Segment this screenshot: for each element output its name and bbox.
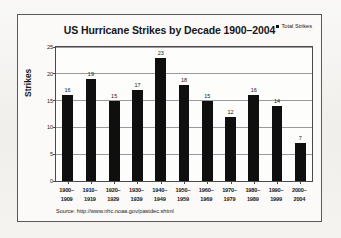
x-axis-label-line: 1980– [241, 186, 264, 195]
x-axis-label-line: 1930– [125, 186, 148, 195]
bar-group: 12 [225, 47, 236, 181]
bar-group: 18 [179, 47, 190, 181]
source-note: Source: http://www.nhc.noaa.gov/pastdec.… [56, 208, 174, 214]
x-axis-label-line: 1960– [195, 186, 218, 195]
x-axis-label-line: 1920– [102, 186, 125, 195]
x-axis-label: 1950–1959 [171, 186, 194, 203]
plot-area: 0510152025 161915172318151216147 [55, 46, 313, 182]
x-axis-label: 1940–1949 [148, 186, 171, 203]
bar[interactable] [155, 58, 166, 181]
x-tick-mark [114, 181, 115, 184]
bar[interactable] [272, 106, 283, 181]
x-axis-label-line: 1929 [102, 195, 125, 204]
x-tick-mark [277, 181, 278, 184]
y-tick-mark-20 [53, 73, 56, 74]
x-axis-label-line: 1970– [218, 186, 241, 195]
x-axis-label-line: 1910– [78, 186, 101, 195]
bar-value-label: 15 [111, 94, 117, 100]
bar-value-label: 19 [88, 72, 94, 78]
x-axis-label-line: 1909 [55, 195, 78, 204]
bar[interactable] [132, 90, 143, 181]
legend-swatch-total-strikes [276, 25, 279, 28]
chart-card-frame: US Hurricane Strikes by Decade 1900–2004… [17, 14, 322, 222]
x-tick-mark [68, 181, 69, 184]
bar-value-label: 12 [227, 110, 233, 116]
y-tick-mark-0 [53, 181, 56, 182]
bar[interactable] [62, 95, 73, 181]
bar-value-label: 14 [274, 99, 280, 105]
bar-group: 16 [62, 47, 73, 181]
x-tick-mark [137, 181, 138, 184]
x-axis-label-line: 2000– [288, 186, 311, 195]
y-tick-label-15: 15 [47, 98, 53, 104]
x-axis-label: 1930–1939 [125, 186, 148, 203]
bar[interactable] [295, 143, 306, 181]
x-tick-mark [300, 181, 301, 184]
x-axis-label-line: 1979 [218, 195, 241, 204]
bar-group: 15 [109, 47, 120, 181]
y-tick-mark-25 [53, 47, 56, 48]
y-tick-label-10: 10 [47, 124, 53, 130]
bar-group: 19 [86, 47, 97, 181]
bar-value-label: 23 [158, 51, 164, 57]
bar-group: 15 [202, 47, 213, 181]
y-tick-mark-5 [53, 154, 56, 155]
y-tick-label-20: 20 [47, 71, 53, 77]
x-axis-label: 1990–1999 [264, 186, 287, 203]
bar-group: 7 [295, 47, 306, 181]
bar[interactable] [248, 95, 259, 181]
x-axis-label-line: 1959 [171, 195, 194, 204]
x-axis-label-line: 1939 [125, 195, 148, 204]
x-tick-mark [161, 181, 162, 184]
x-axis-label: 1920–1929 [102, 186, 125, 203]
bar[interactable] [202, 101, 213, 181]
bar-value-label: 16 [251, 88, 257, 94]
x-axis-label-line: 1940– [148, 186, 171, 195]
x-axis-label: 1900–1909 [55, 186, 78, 203]
x-axis-label-line: 1919 [78, 195, 101, 204]
x-tick-mark [184, 181, 185, 184]
x-axis-label-line: 1900– [55, 186, 78, 195]
x-axis-label-line: 1989 [241, 195, 264, 204]
x-axis-label: 1910–1919 [78, 186, 101, 203]
x-tick-mark [254, 181, 255, 184]
x-tick-mark [231, 181, 232, 184]
bar-group: 16 [248, 47, 259, 181]
x-tick-mark [207, 181, 208, 184]
bar-group: 17 [132, 47, 143, 181]
x-axis-label: 1980–1989 [241, 186, 264, 203]
x-axis-label: 1960–1969 [195, 186, 218, 203]
y-tick-label-5: 5 [50, 151, 53, 157]
x-axis-label: 1970–1979 [218, 186, 241, 203]
x-axis-label-line: 1969 [195, 195, 218, 204]
bar[interactable] [86, 79, 97, 181]
y-tick-label-0: 0 [50, 178, 53, 184]
x-axis-label-line: 1999 [264, 195, 287, 204]
bar-group: 14 [272, 47, 283, 181]
bar[interactable] [109, 101, 120, 181]
y-tick-mark-10 [53, 127, 56, 128]
x-axis-label-line: 1949 [148, 195, 171, 204]
y-tick-label-25: 25 [47, 44, 53, 50]
bar[interactable] [179, 85, 190, 181]
legend-label-total-strikes: Total Strikes [282, 23, 312, 29]
bar[interactable] [225, 117, 236, 181]
bar-value-label: 15 [204, 94, 210, 100]
chart-legend: Total Strikes [276, 23, 312, 29]
y-tick-mark-15 [53, 100, 56, 101]
x-tick-mark [91, 181, 92, 184]
bar-value-label: 17 [134, 83, 140, 89]
x-axis-label-line: 2004 [288, 195, 311, 204]
bar-value-label: 16 [65, 88, 71, 94]
bar-value-label: 7 [299, 136, 302, 142]
y-axis-title: Strikes [23, 83, 33, 97]
x-axis-label-line: 1990– [264, 186, 287, 195]
x-axis-label: 2000–2004 [288, 186, 311, 203]
page-background: US Hurricane Strikes by Decade 1900–2004… [0, 0, 341, 238]
x-axis-label-line: 1950– [171, 186, 194, 195]
bar-value-label: 18 [181, 78, 187, 84]
bar-group: 23 [155, 47, 166, 181]
x-axis-category-labels: 1900–19091910–19191920–19291930–19391940… [55, 186, 313, 208]
